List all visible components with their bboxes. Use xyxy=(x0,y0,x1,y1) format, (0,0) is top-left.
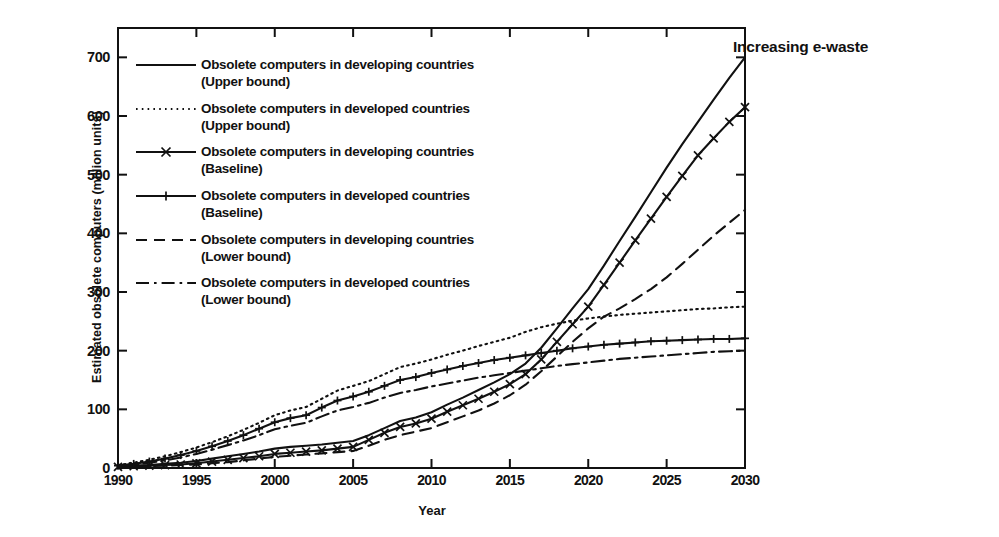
legend-item-label-bound: (Baseline) xyxy=(201,204,601,221)
legend-item-label-bound: (Upper bound) xyxy=(201,73,601,90)
legend-item-1[interactable]: Obsolete computers in developed countrie… xyxy=(201,100,601,134)
chart-figure: 0100200300400500600700 19901995200020052… xyxy=(0,0,999,537)
legend-item-0[interactable]: Obsolete computers in developing countri… xyxy=(201,56,601,90)
legend-item-label-bound: (Baseline) xyxy=(201,160,601,177)
legend-sample-marker-3 xyxy=(162,192,171,201)
legend-item-label-primary: Obsolete computers in developing countri… xyxy=(201,143,601,160)
legend-item-label-primary: Obsolete computers in developing countri… xyxy=(201,231,601,248)
chart-legend: Obsolete computers in developing countri… xyxy=(0,0,999,537)
legend-item-label-primary: Obsolete computers in developed countrie… xyxy=(201,100,601,117)
legend-item-3[interactable]: Obsolete computers in developed countrie… xyxy=(201,187,601,221)
legend-item-4[interactable]: Obsolete computers in developing countri… xyxy=(201,231,601,265)
legend-item-label-primary: Obsolete computers in developing countri… xyxy=(201,56,601,73)
legend-item-5[interactable]: Obsolete computers in developed countrie… xyxy=(201,274,601,308)
legend-item-label-primary: Obsolete computers in developed countrie… xyxy=(201,274,601,291)
legend-item-label-bound: (Lower bound) xyxy=(201,248,601,265)
legend-item-2[interactable]: Obsolete computers in developing countri… xyxy=(201,143,601,177)
legend-item-label-bound: (Lower bound) xyxy=(201,291,601,308)
legend-item-label-primary: Obsolete computers in developed countrie… xyxy=(201,187,601,204)
legend-item-label-bound: (Upper bound) xyxy=(201,117,601,134)
